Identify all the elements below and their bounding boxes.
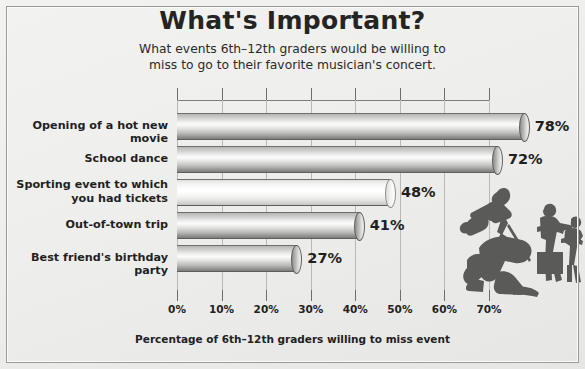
tick-mark-bottom — [311, 290, 312, 301]
tick-mark-top — [444, 88, 445, 100]
category-label: School dance — [8, 152, 168, 166]
category-label: Out-of-town trip — [8, 218, 168, 232]
x-axis-tick-label: 40% — [343, 303, 368, 315]
tick-mark-top — [489, 88, 490, 100]
category-label: Best friend's birthday party — [8, 251, 168, 278]
bar — [177, 245, 297, 272]
bar — [177, 212, 360, 239]
bar — [177, 179, 391, 206]
value-label: 72% — [508, 151, 543, 167]
category-label: Opening of a hot new movie — [8, 119, 168, 146]
chart-title: What's Important? — [0, 6, 585, 35]
axis-caption: Percentage of 6th–12th graders willing t… — [0, 333, 585, 345]
x-axis-tick-label: 0% — [168, 303, 186, 315]
x-axis-tick-label: 60% — [432, 303, 457, 315]
chart-subtitle: What events 6th–12th graders would be wi… — [0, 41, 585, 73]
subtitle-line-1: What events 6th–12th graders would be wi… — [0, 41, 585, 57]
bar-end-cap — [385, 179, 396, 208]
bar — [177, 146, 498, 173]
tick-mark-bottom — [355, 290, 356, 301]
category-label-line: Out-of-town trip — [8, 218, 168, 232]
tick-mark-bottom — [489, 290, 490, 301]
tick-mark-top — [355, 88, 356, 100]
tick-mark-bottom — [222, 290, 223, 301]
tick-mark-bottom — [177, 290, 178, 301]
tick-mark-top — [222, 88, 223, 100]
chart-card: What's Important? What events 6th–12th g… — [0, 0, 585, 369]
bar-end-cap — [492, 146, 503, 175]
value-label: 27% — [307, 250, 342, 266]
tick-mark-top — [266, 88, 267, 100]
category-label-line: Sporting event to which — [8, 178, 168, 192]
subtitle-line-2: miss to go to their favorite musician's … — [0, 57, 585, 73]
tick-mark-bottom — [400, 290, 401, 301]
x-axis-tick-label: 70% — [476, 303, 501, 315]
category-label-line: School dance — [8, 152, 168, 166]
x-axis-tick-label: 10% — [209, 303, 234, 315]
bar — [177, 113, 525, 140]
tick-mark-top — [400, 88, 401, 100]
value-label: 41% — [370, 217, 405, 233]
value-label: 78% — [535, 118, 570, 134]
tick-mark-top — [177, 88, 178, 100]
value-label: 48% — [401, 184, 436, 200]
category-label-line: Opening of a hot new movie — [8, 119, 168, 146]
x-axis-tick-label: 50% — [387, 303, 412, 315]
tick-mark-bottom — [444, 290, 445, 301]
category-label-line: you had tickets — [8, 192, 168, 206]
tick-mark-bottom — [266, 290, 267, 301]
category-label: Sporting event to whichyou had tickets — [8, 178, 168, 205]
x-axis-tick-label: 30% — [298, 303, 323, 315]
tick-mark-top — [311, 88, 312, 100]
bar-end-cap — [354, 212, 365, 241]
x-axis-tick-label: 20% — [254, 303, 279, 315]
bar-end-cap — [519, 113, 530, 142]
category-label-line: Best friend's birthday party — [8, 251, 168, 278]
